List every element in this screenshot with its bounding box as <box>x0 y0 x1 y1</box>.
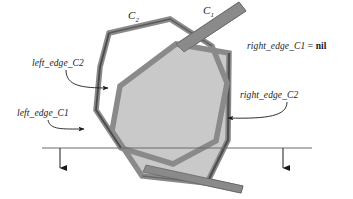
right-edge-c1-operator: = <box>308 41 313 51</box>
right-edge-c1-lhs: right_edge_C1 <box>247 41 305 51</box>
figure-canvas: C2 C1 left_edge_C2 left_edge_C1 right_ed… <box>0 0 353 199</box>
label-c1-sub: 1 <box>210 11 214 19</box>
label-right-edge-c2: right_edge_C2 <box>240 90 298 100</box>
label-left-edge-c1: left_edge_C1 <box>17 108 69 118</box>
label-curve-c2: C2 <box>128 9 139 24</box>
label-left-edge-c2: left_edge_C2 <box>32 58 84 68</box>
leader-right-edge-c2 <box>228 102 287 118</box>
label-curve-c1: C1 <box>203 4 214 19</box>
right-edge-c1-value: nil <box>316 41 327 51</box>
geometry-figure <box>0 0 353 199</box>
label-c2-sub: 2 <box>135 16 139 24</box>
leader-left-edge-c1 <box>48 120 84 129</box>
label-right-edge-c1-expression: right_edge_C1 = nil <box>247 41 327 51</box>
